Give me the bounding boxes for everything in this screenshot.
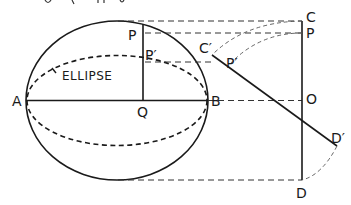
label-ellipse: ELLIPSE — [62, 69, 112, 83]
label-pprime-left: P′ — [145, 47, 157, 63]
label-dprime: D′ — [331, 130, 345, 146]
label-c: C — [306, 9, 316, 25]
arc-c-to-cprime — [212, 21, 302, 55]
label-q: Q — [137, 104, 148, 120]
ellipse-pointer-arrow — [52, 68, 56, 73]
ellipse-projection-diagram: P P′ ELLIPSE A B Q C P C′ P′ O D′ D — [0, 0, 351, 205]
label-a: A — [12, 93, 22, 109]
label-pprime-right: P′ — [226, 55, 238, 71]
arc-d-to-dprime — [302, 146, 337, 180]
label-o: O — [306, 91, 317, 107]
label-cprime: C′ — [199, 40, 212, 56]
arc-p-to-pprime — [228, 33, 302, 66]
cut-off-header-text — [45, 0, 124, 4]
label-b: B — [211, 93, 221, 109]
label-p-left: P — [128, 27, 136, 43]
label-p-right: P — [306, 25, 314, 41]
label-d: D — [296, 185, 307, 201]
